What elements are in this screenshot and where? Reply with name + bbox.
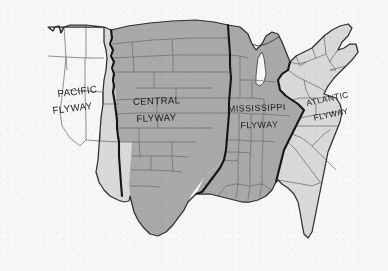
map-canvas: PACIFIC FLYWAY CENTRAL FLYWAY MISSISSIPP… [0,0,388,271]
central-label-line1: CENTRAL [133,94,181,107]
pacific-label-line2: FLYWAY [52,100,93,116]
label-pacific-flyway: PACIFIC FLYWAY [50,83,100,116]
mississippi-label-line2: FLYWAY [240,119,278,130]
mississippi-label-line1: MISSISSIPPI [228,102,286,114]
central-label-line2: FLYWAY [136,111,177,123]
